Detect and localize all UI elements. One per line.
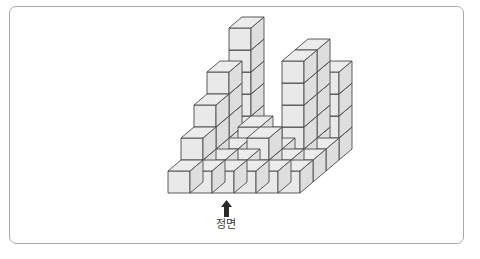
up-arrow-icon <box>220 200 233 217</box>
page-root: 정면 <box>0 0 480 259</box>
front-label-text: 정면 <box>186 218 266 231</box>
front-direction-label-group: 정면 <box>186 200 266 231</box>
cube-group <box>168 17 352 193</box>
